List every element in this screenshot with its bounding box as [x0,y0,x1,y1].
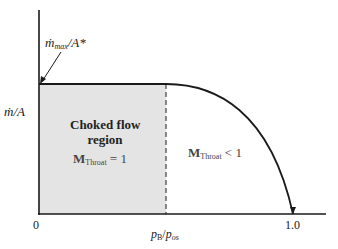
choked-region-title: Choked flowregion [70,118,140,146]
mach-eq-one-label: MThroat = 1 [73,152,127,167]
y-axis-label: ṁ/A [4,105,25,118]
x-tick-one: 1.0 [285,219,300,231]
annotation-arrow [43,52,61,80]
mach-lt-one-label: MThroat < 1 [188,146,242,161]
x-tick-zero: 0 [33,219,39,231]
mdot-max-label: ṁmax/A* [45,36,86,51]
x-axis-label: pB/pos [151,228,179,242]
choked-region-shading [39,84,166,214]
curve-end-arrow-icon [290,207,296,214]
